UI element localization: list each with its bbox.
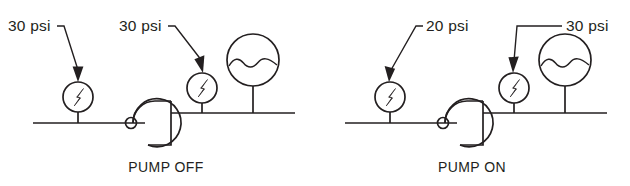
discharge-gauge-pump-on bbox=[499, 73, 529, 113]
discharge-pressure-label: 30 psi bbox=[566, 17, 609, 34]
leader-line bbox=[514, 26, 562, 61]
leader-arrowhead-icon bbox=[73, 66, 84, 82]
leader-arrowhead-icon bbox=[194, 55, 204, 73]
tank-pump-off bbox=[227, 34, 279, 113]
gauge-face-icon bbox=[375, 82, 405, 112]
panel-pump-on: 20 psi 30 psi PUMP ON bbox=[345, 17, 609, 175]
tank-pump-on bbox=[539, 34, 591, 113]
panel-caption-pump-off: PUMP OFF bbox=[128, 159, 203, 175]
pump-pressure-diagram: 30 psi 30 psi PUMP OFF bbox=[0, 0, 630, 186]
leader-arrowhead-icon bbox=[508, 57, 518, 74]
diagram-canvas: 30 psi 30 psi PUMP OFF bbox=[0, 0, 630, 186]
panel-caption-pump-on: PUMP ON bbox=[438, 159, 506, 175]
gauge-face-icon bbox=[499, 73, 529, 103]
pump-discharge-neck bbox=[460, 113, 483, 145]
leader-discharge-pump-on bbox=[508, 26, 562, 73]
discharge-pressure-label: 30 psi bbox=[119, 17, 162, 34]
pump-volute-upper bbox=[445, 101, 483, 123]
tank-fluid-wave-icon bbox=[541, 59, 589, 67]
suction-gauge-pump-on bbox=[375, 82, 405, 123]
suction-pressure-label: 20 psi bbox=[426, 17, 469, 34]
leader-suction-pump-on bbox=[385, 26, 423, 82]
pump-volute-upper bbox=[133, 101, 171, 123]
leader-discharge-pump-off bbox=[168, 26, 204, 73]
suction-gauge-pump-off bbox=[63, 82, 93, 123]
tank-fluid-wave-icon bbox=[229, 59, 277, 67]
pump-discharge-neck bbox=[148, 113, 171, 145]
gauge-needle-icon bbox=[510, 80, 519, 98]
leader-line bbox=[168, 26, 202, 61]
suction-pressure-label: 30 psi bbox=[8, 17, 51, 34]
gauge-needle-icon bbox=[386, 89, 395, 107]
gauge-face-icon bbox=[63, 82, 93, 112]
discharge-gauge-pump-off bbox=[187, 73, 217, 113]
gauge-needle-icon bbox=[198, 80, 207, 98]
gauge-face-icon bbox=[187, 73, 217, 103]
leader-arrowhead-icon bbox=[385, 66, 396, 82]
leader-line bbox=[391, 26, 423, 70]
panel-pump-off: 30 psi 30 psi PUMP OFF bbox=[8, 17, 295, 175]
gauge-needle-icon bbox=[74, 89, 83, 107]
leader-line bbox=[57, 26, 78, 70]
leader-suction-pump-off bbox=[57, 26, 83, 82]
